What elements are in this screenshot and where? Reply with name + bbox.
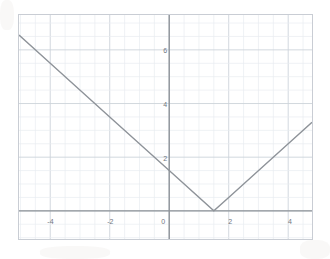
plot-area: -4-2024246 [18, 14, 313, 240]
y-tick-label: 4 [163, 101, 167, 108]
x-tick-label: -2 [107, 218, 113, 225]
paper-texture-blotch [300, 240, 330, 259]
tick-label-layer: -4-2024246 [19, 15, 312, 239]
x-tick-label: -4 [47, 218, 53, 225]
graph-figure: -4-2024246 [0, 0, 330, 259]
y-tick-label: 2 [163, 155, 167, 162]
x-tick-label: 2 [228, 218, 232, 225]
x-tick-label: 0 [161, 218, 165, 225]
x-tick-label: 4 [288, 218, 292, 225]
paper-texture-blotch [40, 246, 110, 259]
paper-texture-blotch [0, 0, 14, 30]
y-tick-label: 6 [163, 47, 167, 54]
